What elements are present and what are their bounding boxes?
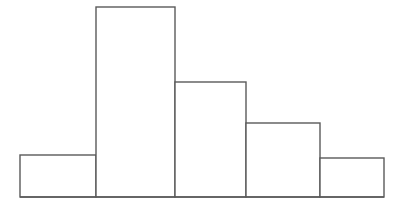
- bar-2: [96, 7, 175, 197]
- bars-group: [20, 7, 384, 197]
- bar-3: [175, 82, 246, 197]
- bar-5: [320, 158, 384, 197]
- bar-1: [20, 155, 96, 197]
- histogram-chart: [0, 0, 398, 207]
- histogram-svg: [0, 0, 398, 207]
- bar-4: [246, 123, 320, 197]
